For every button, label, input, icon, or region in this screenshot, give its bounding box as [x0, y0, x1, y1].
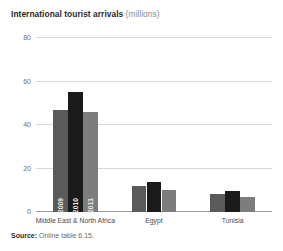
chart-title: International tourist arrivals (millions…: [11, 9, 160, 20]
bar-group: Tunisia: [193, 38, 272, 212]
x-axis-category-label: Tunisia: [222, 217, 244, 224]
source-label: Source:: [11, 232, 37, 239]
bar-group: 200920102011Middle East & North Africa: [36, 38, 115, 212]
chart-title-main: International tourist arrivals: [11, 9, 123, 19]
bar[interactable]: [147, 182, 162, 212]
series-year-label: 2009: [57, 198, 64, 213]
bar[interactable]: [162, 190, 177, 212]
bar-group: Egypt: [115, 38, 194, 212]
y-axis-tick-label: 60: [23, 77, 31, 84]
bar[interactable]: [132, 186, 147, 212]
bar[interactable]: 2010: [68, 92, 83, 212]
bar[interactable]: [240, 197, 255, 212]
chart-title-unit: (millions): [126, 9, 160, 19]
series-year-label: 2010: [72, 198, 79, 213]
chart-figure: International tourist arrivals (millions…: [0, 0, 283, 251]
y-axis-tick-label: 20: [23, 164, 31, 171]
y-axis-tick-label: 0: [27, 208, 31, 215]
bar[interactable]: [210, 194, 225, 212]
y-axis-tick-label: 80: [23, 34, 31, 41]
series-year-label: 2011: [87, 198, 94, 213]
bar[interactable]: [225, 191, 240, 212]
bar[interactable]: 2009: [53, 110, 68, 212]
source-value: Online table 6.15.: [39, 232, 94, 239]
x-axis-category-label: Egypt: [145, 217, 162, 224]
source-note: Source: Online table 6.15.: [11, 231, 94, 240]
x-axis-category-label: Middle East & North Africa: [36, 217, 115, 224]
bar[interactable]: 2011: [83, 112, 98, 212]
plot-area: 020406080 200920102011Middle East & Nort…: [36, 38, 272, 212]
y-axis-tick-label: 40: [23, 121, 31, 128]
